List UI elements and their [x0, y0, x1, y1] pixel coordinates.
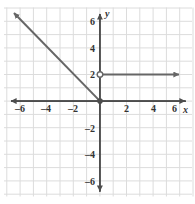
y-tick-label-4: 4	[90, 44, 95, 54]
y-tick-label-neg4: –4	[85, 150, 95, 160]
y-axis-label: y	[105, 9, 109, 19]
coordinate-plane-figure: –6 –4 –2 2 4 6 6 4 2 –2 –4 –6 x y	[0, 0, 195, 204]
closed-point-marker	[97, 98, 103, 104]
x-tick-label-2: 2	[124, 104, 129, 114]
y-tick-label-neg2: –2	[85, 124, 95, 134]
x-tick-label-neg2: –2	[68, 104, 78, 114]
y-tick-label-2: 2	[90, 70, 95, 80]
open-point-marker	[97, 72, 103, 78]
y-tick-label-6: 6	[90, 17, 95, 27]
graph-canvas	[0, 0, 195, 204]
x-tick-label-neg4: –4	[41, 104, 51, 114]
x-tick-label-4: 4	[151, 104, 156, 114]
x-axis-label: x	[183, 105, 188, 115]
x-tick-label-6: 6	[172, 104, 177, 114]
y-tick-label-neg6: –6	[85, 177, 95, 187]
x-tick-label-neg6: –6	[15, 104, 25, 114]
